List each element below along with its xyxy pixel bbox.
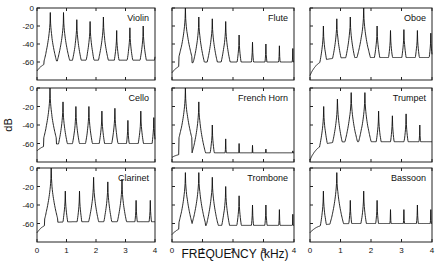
y-tick-label: -40: [22, 40, 34, 49]
y-tick-label: 0: [30, 164, 35, 173]
y-tick-label: -40: [22, 201, 34, 210]
panel-title: Violin: [127, 13, 149, 23]
x-tick-label: 0: [308, 246, 313, 255]
y-tick-label: -60: [22, 220, 34, 229]
panel-oboe: Oboe: [310, 8, 432, 80]
panel-french-horn: French Horn: [172, 88, 294, 162]
x-tick-label: 3: [399, 246, 404, 255]
panel-title: Trombone: [247, 173, 288, 183]
panel-title: Cello: [128, 93, 149, 103]
y-tick-label: -20: [22, 103, 34, 112]
y-tick-label: -20: [22, 22, 34, 31]
y-tick-label: -40: [22, 121, 34, 130]
y-axis-label: dB: [2, 118, 14, 131]
instrument-spectra-figure: Violin0-20-40-60FluteOboeCello0-20-40-60…: [0, 0, 438, 266]
x-tick-label: 0: [35, 246, 40, 255]
x-tick-label: 4: [292, 246, 297, 255]
panel-bassoon: Bassoon01234: [308, 168, 435, 255]
panel-title: Trumpet: [393, 93, 427, 103]
x-axis-label: FREQUENCY (kHz): [181, 247, 288, 261]
panel-title: Flute: [268, 13, 288, 23]
panel-clarinet: Clarinet0-20-40-6001234: [22, 164, 157, 255]
panel-flute: Flute: [172, 8, 294, 80]
x-tick-label: 4: [430, 246, 435, 255]
y-tick-label: 0: [30, 4, 35, 13]
x-tick-label: 4: [153, 246, 158, 255]
panel-cello: Cello0-20-40-60: [22, 84, 155, 162]
y-tick-label: 0: [30, 84, 35, 93]
panel-trumpet: Trumpet: [310, 88, 432, 162]
panels-grid: Violin0-20-40-60FluteOboeCello0-20-40-60…: [22, 4, 434, 255]
y-tick-label: -60: [22, 58, 34, 67]
x-tick-label: 2: [94, 246, 99, 255]
x-tick-label: 3: [123, 246, 128, 255]
panel-title: Bassoon: [391, 173, 426, 183]
x-tick-label: 1: [338, 246, 343, 255]
panel-trombone: Trombone01234: [170, 168, 297, 255]
panel-title: Clarinet: [118, 173, 150, 183]
panel-violin: Violin0-20-40-60: [22, 4, 155, 80]
panel-title: Oboe: [404, 13, 426, 23]
y-tick-label: -60: [22, 140, 34, 149]
x-tick-label: 2: [369, 246, 374, 255]
panel-title: French Horn: [238, 93, 288, 103]
x-tick-label: 0: [170, 246, 175, 255]
x-tick-label: 1: [64, 246, 69, 255]
y-tick-label: -20: [22, 183, 34, 192]
